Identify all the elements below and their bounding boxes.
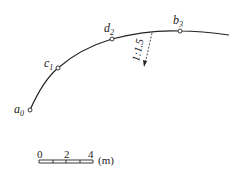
diagram-canvas: a0 c1 d2 b3 1:1.5 0 2 4 (m) <box>0 0 241 183</box>
point-b3-label: b3 <box>173 13 183 29</box>
diagram-svg: a0 c1 d2 b3 1:1.5 0 2 4 (m) <box>0 0 241 183</box>
slope-ratio-label: 1:1.5 <box>129 37 146 62</box>
point-b3-marker <box>178 29 182 33</box>
slope-dashed-line <box>145 33 152 64</box>
slope-arrow-icon <box>143 60 147 67</box>
scale-unit: (m) <box>98 154 114 167</box>
point-a0-marker <box>28 108 32 112</box>
point-d2-label: d2 <box>104 21 114 37</box>
scale-tick-2: 2 <box>64 148 70 160</box>
scale-tick-0: 0 <box>37 148 43 160</box>
scale-bar <box>39 160 93 163</box>
point-d2-marker <box>110 37 114 41</box>
point-c1-label: c1 <box>44 56 53 72</box>
scale-tick-4: 4 <box>88 148 94 160</box>
point-a0-label: a0 <box>14 102 24 118</box>
embankment-curve <box>30 31 229 110</box>
point-c1-marker <box>56 66 60 70</box>
